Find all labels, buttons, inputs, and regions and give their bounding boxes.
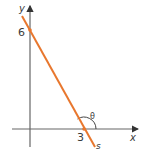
x-intercept-label: 3 (77, 131, 84, 144)
angle-theta-label: θ (90, 112, 95, 121)
y-intercept-point (28, 28, 32, 32)
y-intercept-label: 6 (18, 26, 25, 39)
y-axis-label: y (18, 3, 26, 14)
x-axis-label: x (129, 132, 136, 143)
diagram-canvas: y x 6 3 s θ (0, 0, 151, 160)
line-s-label: s (96, 141, 101, 151)
